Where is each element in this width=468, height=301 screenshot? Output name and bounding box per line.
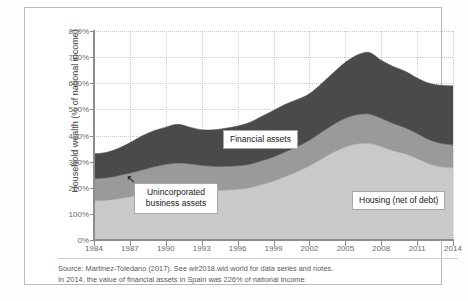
x-tick-label: 1999	[265, 244, 283, 253]
x-tick-label: 1984	[85, 244, 103, 253]
x-tick-label: 1996	[229, 244, 247, 253]
y-tick-mark	[90, 83, 95, 84]
y-tick-label: 400%	[69, 131, 89, 140]
x-tick-label: 2011	[408, 244, 425, 253]
y-tick-label: 500%	[69, 105, 89, 114]
x-tick-label: 1987	[121, 244, 139, 253]
x-tick-label: 2002	[300, 244, 318, 253]
y-axis-line	[93, 30, 95, 241]
y-tick-label: 700%	[69, 53, 89, 62]
gridline-vertical	[453, 31, 454, 240]
source-line-1: Source: Martinez-Toledano (2017). See wi…	[58, 263, 458, 274]
y-tick-label: 200%	[69, 183, 89, 192]
x-tick-label: 1993	[193, 244, 211, 253]
x-axis-tick-labels: 1984198719901993199619992002200520082011…	[94, 244, 453, 256]
y-tick-mark	[90, 214, 95, 215]
y-tick-mark	[90, 136, 95, 137]
source-line-2: In 2014, the value of financial assets i…	[58, 274, 458, 285]
y-tick-label: 300%	[69, 157, 89, 166]
y-tick-mark	[90, 31, 95, 32]
x-tick-label: 2014	[444, 244, 462, 253]
chart-frame: Household wealth (% of national income) …	[24, 7, 442, 285]
y-tick-mark	[90, 188, 95, 189]
y-tick-label: 600%	[69, 79, 89, 88]
y-tick-mark	[90, 109, 95, 110]
y-axis-tick-labels: 0%100%200%300%400%500%600%700%800%	[43, 31, 89, 240]
chart-figure: Household wealth (% of national income) …	[0, 0, 468, 301]
footer-divider	[58, 258, 458, 259]
x-tick-label: 2008	[372, 244, 390, 253]
y-tick-mark	[90, 57, 95, 58]
y-tick-label: 100%	[69, 209, 89, 218]
x-axis-line	[93, 239, 454, 241]
callout-housing-net-of-debt: Housing (net of debt)	[352, 191, 445, 210]
x-tick-label: 1990	[157, 244, 175, 253]
callout-financial-assets: Financial assets	[223, 130, 298, 149]
source-note: Source: Martinez-Toledano (2017). See wi…	[58, 263, 458, 286]
callout-unincorporated-business-assets: Unincorporated business assets	[134, 183, 218, 214]
y-tick-mark	[90, 162, 95, 163]
x-tick-label: 2005	[336, 244, 354, 253]
y-tick-label: 800%	[69, 27, 89, 36]
